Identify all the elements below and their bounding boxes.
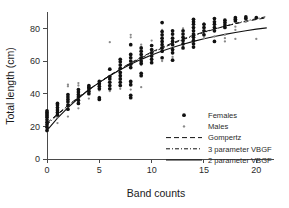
data-point-female [171, 36, 175, 40]
legend-marker-females [182, 113, 186, 117]
data-point-female [192, 35, 196, 39]
data-point-female [129, 53, 133, 57]
legend-label: Females [208, 111, 237, 120]
data-point-female [129, 66, 133, 70]
x-tick-label: 5 [97, 165, 102, 175]
data-point-female [150, 48, 154, 52]
data-point-female [181, 29, 185, 33]
data-point-female [150, 61, 154, 65]
data-point-female [171, 43, 175, 47]
data-point-female [129, 59, 133, 63]
data-point-female [160, 21, 164, 25]
data-point-female [108, 84, 112, 88]
data-point-female [77, 98, 81, 102]
figure-container: 05101520020406080 FemalesMalesGompertz3 … [0, 0, 289, 208]
data-point-female [160, 43, 164, 47]
data-point-male [151, 39, 153, 41]
data-point-female [160, 30, 164, 34]
data-point-male [234, 29, 236, 31]
data-point-male [77, 107, 79, 109]
data-point-male [224, 40, 226, 42]
data-point-female [66, 93, 70, 97]
data-point-female [213, 20, 217, 24]
legend-label: Males [208, 122, 228, 131]
data-point-female [192, 45, 196, 49]
data-point-female [234, 16, 238, 20]
data-point-female [139, 56, 143, 60]
y-tick-label: 80 [30, 24, 40, 34]
data-point-female [118, 58, 122, 62]
data-point-female [56, 102, 60, 106]
data-point-female [171, 51, 175, 55]
data-point-female [160, 33, 164, 37]
data-point-female [181, 39, 185, 43]
data-point-female [192, 18, 196, 22]
data-point-female [150, 44, 154, 48]
data-point-female [118, 63, 122, 67]
data-point-male [255, 38, 257, 40]
data-point-female [108, 80, 112, 84]
data-point-female [171, 40, 175, 44]
data-point-female [192, 29, 196, 33]
x-tick-label: 10 [147, 165, 157, 175]
data-point-female [181, 35, 185, 39]
legend-label: 2 parameter VBGF [208, 156, 272, 165]
data-point-female [181, 46, 185, 50]
data-point-female [129, 80, 133, 84]
data-point-male [234, 26, 236, 28]
data-point-female [171, 58, 175, 62]
data-point-female [108, 75, 112, 79]
data-point-female [108, 87, 112, 91]
data-point-female [213, 26, 217, 30]
data-point-female [129, 56, 133, 60]
data-point-female [118, 74, 122, 78]
legend-marker-males [183, 125, 185, 127]
data-point-female [129, 62, 133, 66]
data-point-female [171, 32, 175, 36]
data-point-male [130, 88, 132, 90]
y-tick-label: 0 [35, 154, 40, 164]
data-point-male [119, 88, 121, 90]
data-point-male [77, 82, 79, 84]
x-axis-title: Band counts [127, 187, 185, 199]
data-point-female [139, 53, 143, 57]
data-point-female [181, 42, 185, 46]
data-point-female [139, 46, 143, 50]
x-tick-label: 0 [44, 165, 49, 175]
data-point-female [254, 16, 258, 20]
data-point-female [244, 15, 248, 19]
data-point-female [213, 40, 217, 44]
data-point-female [139, 49, 143, 53]
data-point-female [97, 80, 101, 84]
legend: FemalesMalesGompertz3 parameter VBGF2 pa… [166, 111, 272, 165]
data-point-male [245, 21, 247, 23]
data-point-female [118, 80, 122, 84]
legend-label: 3 parameter VBGF [208, 145, 272, 154]
data-point-female [118, 67, 122, 71]
data-point-male [130, 34, 132, 36]
data-point-female [202, 22, 206, 26]
data-point-female [192, 32, 196, 36]
fit-curve-gompertz [47, 18, 267, 123]
x-tick-label: 15 [199, 165, 209, 175]
data-point-female [150, 58, 154, 62]
data-point-female [129, 43, 133, 47]
data-point-male [56, 122, 58, 124]
data-point-female [171, 48, 175, 52]
data-point-female [202, 26, 206, 30]
scatter-plot: 05101520020406080 FemalesMalesGompertz3 … [0, 0, 289, 208]
data-point-male [224, 37, 226, 39]
data-point-female [77, 102, 81, 106]
data-point-female [139, 71, 143, 75]
y-tick-label: 20 [30, 122, 40, 132]
data-point-female [160, 49, 164, 53]
data-point-male [88, 97, 90, 99]
data-point-female [118, 84, 122, 88]
data-point-female [45, 109, 49, 113]
data-point-female [139, 59, 143, 63]
data-point-male [109, 41, 111, 43]
data-point-female [160, 36, 164, 40]
data-point-male [140, 44, 142, 46]
data-point-female [129, 83, 133, 87]
data-point-female [181, 32, 185, 36]
